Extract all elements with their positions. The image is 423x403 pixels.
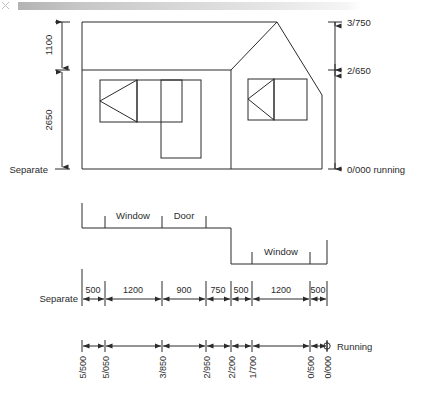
- running-dim-value-6: 0/500: [306, 356, 316, 379]
- elevation-right-window: [248, 79, 274, 120]
- separate-dim-value-0: 500: [85, 285, 100, 295]
- running-dimension-line: [82, 340, 330, 352]
- elevation-right-window-fixed-pane: [274, 79, 307, 120]
- separate-dim-value-3: 750: [210, 285, 225, 295]
- scan-artifact-bar: [18, 2, 361, 10]
- elevation-door: [161, 80, 201, 158]
- elevation-left-window: [100, 80, 137, 122]
- separate-dim-label: Separate: [39, 293, 78, 304]
- separate-dim-value-1: 1200: [123, 285, 143, 295]
- separate-dim-value-4: 500: [233, 285, 248, 295]
- separate-dim-value-6: 500: [310, 285, 325, 295]
- elevation-level-ridge: 3/750: [347, 17, 371, 28]
- plan-label-window-right: Window: [264, 246, 298, 257]
- elevation-level-ground: 0/000 running: [347, 164, 405, 175]
- elevation-level-eaves: 2/650: [347, 65, 371, 76]
- right-running-dimension-spine: [328, 22, 342, 169]
- running-dim-value-3: 2/950: [202, 356, 212, 379]
- running-dim-value-2: 3/850: [158, 356, 168, 379]
- drawing-canvas: 1100 2650 Separate 3/750 2/650 0/000 run…: [0, 0, 423, 403]
- left-dimension-chain: [55, 22, 70, 169]
- plan-label-window-left: Window: [116, 210, 150, 221]
- elevation-dim-1100: 1100: [43, 35, 54, 55]
- separate-dim-value-2: 900: [176, 285, 191, 295]
- technical-drawing: 1100 2650 Separate 3/750 2/650 0/000 run…: [0, 0, 423, 403]
- running-dim-value-0: 5/500: [78, 356, 88, 379]
- elevation-separate-label: Separate: [9, 164, 48, 175]
- elevation-outline: [82, 22, 322, 169]
- elevation-left-window-fixed-pane: [137, 80, 182, 122]
- separate-dim-value-5: 1200: [271, 285, 291, 295]
- running-dim-value-7: 0/000: [323, 356, 333, 379]
- corner-registration-mark: [1, 1, 10, 10]
- running-dim-label: Running: [337, 341, 372, 352]
- running-dim-value-1: 5/050: [101, 356, 111, 379]
- running-dim-value-5: 1/700: [248, 356, 258, 379]
- running-dim-value-4: 2/200: [227, 356, 237, 379]
- plan-label-door: Door: [174, 210, 195, 221]
- elevation-dim-2650: 2650: [43, 109, 54, 130]
